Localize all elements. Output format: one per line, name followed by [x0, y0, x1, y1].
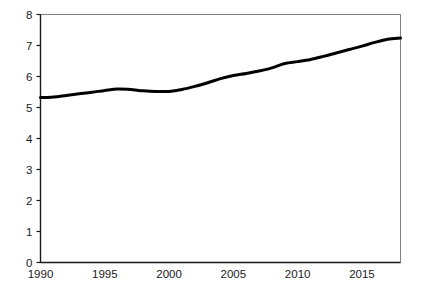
x-tick-label: 1995: [92, 268, 118, 280]
x-tick-label: 2000: [156, 268, 182, 280]
y-tick-label: 3: [26, 164, 32, 176]
y-tick-label: 4: [26, 133, 33, 145]
y-tick-label: 5: [26, 102, 32, 114]
x-tick-label: 2010: [285, 268, 311, 280]
line-chart: 012345678 199019952000200520102015: [0, 0, 422, 294]
x-tick-label: 2005: [221, 268, 247, 280]
y-axis-tick-labels: 012345678: [26, 9, 33, 269]
plot-background: [0, 0, 422, 294]
y-tick-label: 6: [26, 71, 32, 83]
y-tick-label: 2: [26, 195, 32, 207]
x-tick-label: 1990: [28, 268, 54, 280]
y-tick-label: 8: [26, 9, 32, 21]
chart-figure: 012345678 199019952000200520102015: [0, 0, 422, 294]
y-tick-label: 1: [26, 226, 32, 238]
y-tick-label: 7: [26, 40, 32, 52]
x-tick-label: 2015: [349, 268, 375, 280]
